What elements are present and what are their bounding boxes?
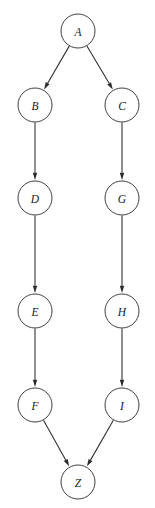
arrowhead-icon bbox=[87, 459, 92, 466]
graph-node-c[interactable]: C bbox=[105, 88, 139, 122]
arrowhead-icon bbox=[120, 380, 124, 387]
arrowhead-icon bbox=[33, 173, 37, 180]
graph-edge-g-h bbox=[120, 216, 124, 294]
graph-node-d[interactable]: D bbox=[18, 181, 52, 215]
diagram-canvas: ABCDGEHFIZ bbox=[0, 0, 155, 508]
arrowhead-icon bbox=[120, 173, 124, 180]
edge-line bbox=[91, 420, 114, 460]
edge-line bbox=[44, 420, 66, 460]
graph-node-g[interactable]: G bbox=[105, 181, 139, 215]
node-label: Z bbox=[75, 477, 82, 489]
graph-node-h[interactable]: H bbox=[105, 294, 139, 328]
node-label: A bbox=[73, 26, 82, 38]
node-label: G bbox=[118, 193, 127, 205]
graph-node-e[interactable]: E bbox=[18, 294, 52, 328]
graph-edge-a-c bbox=[87, 46, 113, 89]
arrowhead-icon bbox=[33, 380, 37, 387]
node-label: F bbox=[30, 400, 39, 412]
edge-line bbox=[48, 46, 70, 83]
graph-edge-b-d bbox=[33, 123, 37, 181]
directed-graph: ABCDGEHFIZ bbox=[0, 0, 155, 508]
graph-edge-e-f bbox=[33, 329, 37, 388]
node-label: D bbox=[30, 193, 40, 205]
node-label: B bbox=[31, 100, 38, 112]
node-label: C bbox=[118, 100, 126, 112]
graph-edge-i-z bbox=[87, 420, 113, 466]
graph-node-a[interactable]: A bbox=[61, 14, 95, 48]
nodes-layer: ABCDGEHFIZ bbox=[18, 14, 139, 499]
arrowhead-icon bbox=[107, 82, 113, 89]
arrowhead-icon bbox=[33, 286, 37, 293]
node-label: H bbox=[117, 306, 127, 318]
arrowhead-icon bbox=[44, 82, 50, 89]
graph-node-f[interactable]: F bbox=[18, 388, 52, 422]
graph-edge-c-g bbox=[120, 123, 124, 181]
arrowhead-icon bbox=[64, 459, 69, 466]
arrowhead-icon bbox=[120, 286, 124, 293]
graph-edge-h-i bbox=[120, 329, 124, 388]
edge-line bbox=[87, 46, 109, 83]
graph-edge-a-b bbox=[44, 46, 69, 89]
graph-edge-d-e bbox=[33, 216, 37, 294]
node-label: E bbox=[30, 306, 38, 318]
graph-edge-f-z bbox=[44, 420, 70, 466]
graph-node-b[interactable]: B bbox=[18, 88, 52, 122]
graph-node-i[interactable]: I bbox=[105, 388, 139, 422]
graph-node-z[interactable]: Z bbox=[61, 465, 95, 499]
